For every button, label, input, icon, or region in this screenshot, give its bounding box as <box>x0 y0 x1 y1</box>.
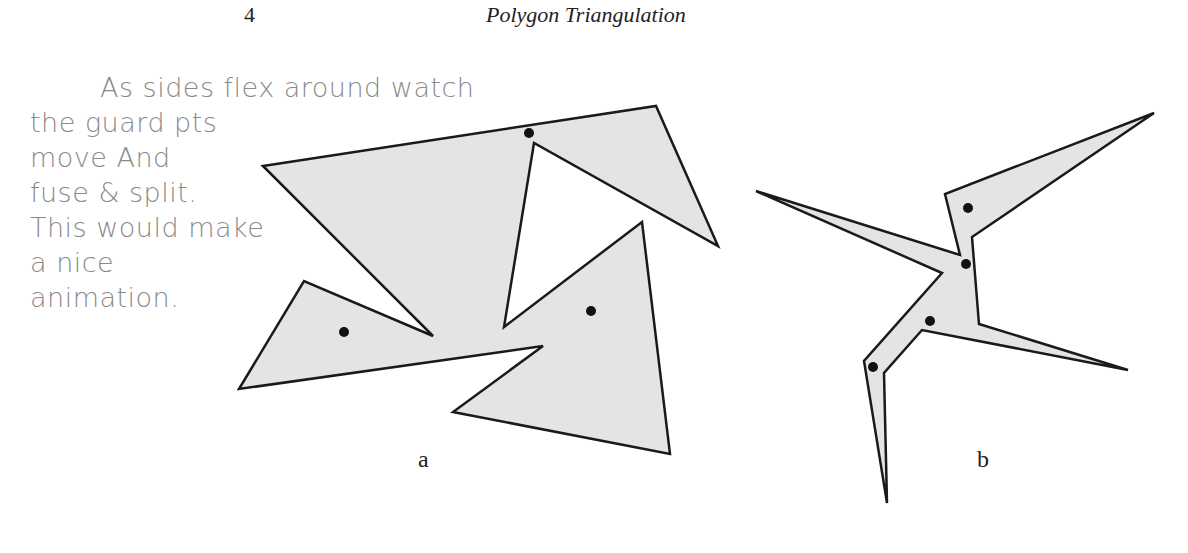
polygon-a <box>239 106 718 454</box>
polygon-b <box>756 113 1154 503</box>
figure-a <box>239 106 718 454</box>
guard-point <box>868 362 878 372</box>
figure-canvas <box>0 0 1188 553</box>
guard-point <box>524 128 534 138</box>
guard-point <box>586 306 596 316</box>
figure-b <box>756 113 1154 503</box>
guard-point <box>925 316 935 326</box>
guard-point <box>963 203 973 213</box>
figure-label-a: a <box>418 446 429 473</box>
guard-point <box>339 327 349 337</box>
guard-point <box>961 259 971 269</box>
figure-label-b: b <box>977 446 989 473</box>
